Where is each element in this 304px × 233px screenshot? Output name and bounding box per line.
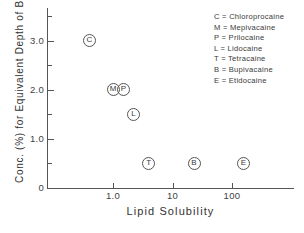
y-tick-label: 0: [14, 182, 44, 193]
legend-item-chloroprocaine: C = Chloroprocaine: [214, 12, 284, 23]
legend-separator: =: [219, 76, 228, 85]
data-point-tetracaine: T: [142, 157, 155, 170]
legend-label: Chloroprocaine: [229, 12, 284, 21]
legend-label: Prilocaine: [229, 33, 265, 42]
legend-label: Tetracaine: [228, 54, 266, 63]
legend-separator: =: [219, 54, 228, 63]
legend-key: M: [214, 23, 221, 32]
y-axis-line: [47, 8, 48, 189]
legend-separator: =: [218, 44, 227, 53]
legend-item-lidocaine: L = Lidocaine: [214, 44, 284, 55]
legend-separator: =: [219, 33, 228, 42]
data-point-bupivacaine: B: [188, 157, 201, 170]
legend-label: Bupivacaine: [229, 65, 273, 74]
legend-label: Etidocaine: [229, 76, 267, 85]
y-tick-major: [48, 90, 54, 91]
data-point-etidocaine: E: [237, 157, 250, 170]
legend-item-etidocaine: E = Etidocaine: [214, 76, 284, 87]
legend-separator: =: [219, 65, 228, 74]
x-axis-title: Lipid Solubility: [47, 205, 294, 217]
data-point-prilocaine: P: [117, 83, 130, 96]
legend-label: Mepivacaine: [230, 23, 275, 32]
x-axis-line: [47, 188, 294, 189]
legend-separator: =: [220, 12, 229, 21]
legend-item-prilocaine: P = Prilocaine: [214, 33, 284, 44]
legend: C = ChloroprocaineM = MepivacaineP = Pri…: [214, 12, 284, 86]
data-point-chloroprocaine: C: [83, 34, 96, 47]
y-axis-title: Conc. (%) for Equivalent Depth of Block: [14, 2, 25, 183]
y-tick-major: [48, 188, 54, 189]
x-tick-major: [113, 183, 114, 188]
x-tick-label: 10: [153, 190, 193, 201]
legend-label: Lidocaine: [228, 44, 263, 53]
y-tick-minor: [48, 114, 52, 115]
y-tick-minor: [48, 16, 52, 17]
y-tick-major: [48, 41, 54, 42]
x-tick-major: [232, 183, 233, 188]
legend-item-tetracaine: T = Tetracaine: [214, 54, 284, 65]
legend-separator: =: [221, 23, 230, 32]
data-point-lidocaine: L: [127, 108, 140, 121]
chart-figure: 01.02.03.0 1.010100 Conc. (%) for Equiva…: [0, 0, 304, 233]
legend-item-mepivacaine: M = Mepivacaine: [214, 23, 284, 34]
y-tick-minor: [48, 163, 52, 164]
y-tick-minor: [48, 65, 52, 66]
x-tick-label: 100: [212, 190, 252, 201]
legend-item-bupivacaine: B = Bupivacaine: [214, 65, 284, 76]
x-tick-major: [173, 183, 174, 188]
y-tick-major: [48, 139, 54, 140]
x-tick-label: 1.0: [93, 190, 133, 201]
